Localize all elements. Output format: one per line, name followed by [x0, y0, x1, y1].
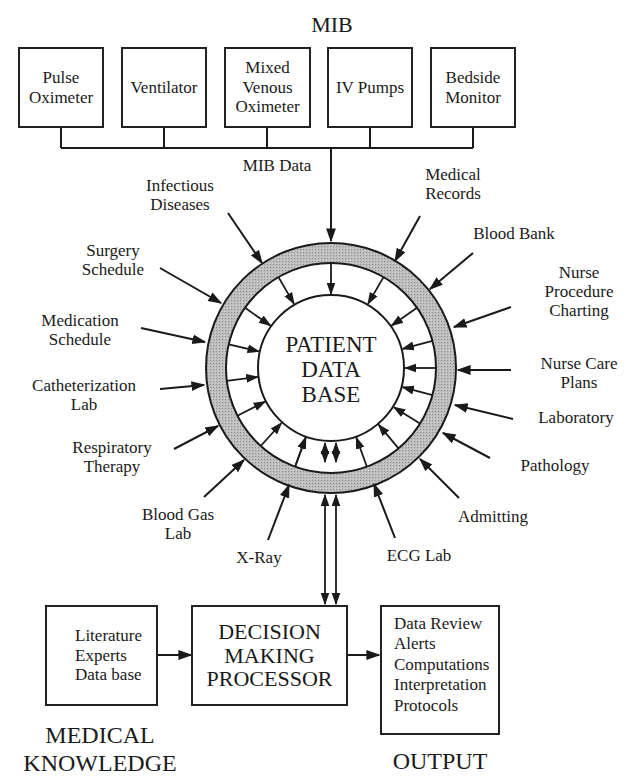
- caption-line-1: MEDICAL: [20, 722, 180, 750]
- inner-arrow: [403, 341, 433, 349]
- knowledge-item: Experts: [75, 646, 142, 666]
- device-bedside-monitor: Bedside Monitor: [430, 47, 516, 128]
- inner-arrow: [295, 438, 306, 467]
- processor-line-2: MAKING: [224, 644, 314, 668]
- inner-arrow: [279, 277, 295, 304]
- output-item: Alerts: [394, 634, 489, 654]
- center-line-2: DATA: [261, 358, 401, 383]
- knowledge-item: Data base: [75, 665, 142, 685]
- knowledge-item: Literature: [75, 626, 142, 646]
- output-box: Data Review Alerts Computations Interpre…: [380, 605, 500, 735]
- patient-database-title: PATIENT DATA BASE: [261, 333, 401, 407]
- inner-arrow: [229, 344, 259, 351]
- inner-arrow: [227, 377, 258, 381]
- inner-arrow: [356, 438, 367, 467]
- inner-arrow: [392, 308, 417, 326]
- inner-arrow: [368, 277, 384, 304]
- inner-arrow: [394, 407, 420, 423]
- source-medication-schedule: Medication Schedule: [24, 311, 136, 349]
- mib-title: MIB: [297, 12, 367, 37]
- source-surgery-schedule: Surgery Schedule: [70, 241, 156, 279]
- medical-knowledge-box: Literature Experts Data base: [45, 605, 158, 706]
- inner-arrow: [261, 423, 282, 446]
- source-catheterization-lab: Catheterization Lab: [14, 376, 154, 414]
- medical-knowledge-caption: MEDICAL KNOWLEDGE: [20, 722, 180, 777]
- source-blood-bank: Blood Bank: [464, 224, 564, 243]
- output-item: Interpretation: [394, 675, 489, 695]
- source-laboratory: Laboratory: [526, 408, 626, 427]
- output-list: Data Review Alerts Computations Interpre…: [382, 607, 489, 716]
- output-item: Protocols: [394, 696, 489, 716]
- output-caption: OUTPUT: [390, 748, 490, 776]
- inner-arrow: [379, 425, 399, 449]
- processor-line-1: DECISION: [218, 620, 321, 644]
- decision-making-processor-box: DECISION MAKING PROCESSOR: [191, 605, 348, 706]
- source-nurse-care-plans: Nurse Care Plans: [524, 354, 634, 392]
- processor-line-3: PROCESSOR: [207, 667, 333, 691]
- output-item: Data Review: [394, 614, 489, 634]
- source-medical-records: Medical Records: [410, 165, 496, 203]
- device-ventilator: Ventilator: [121, 47, 207, 128]
- source-pathology: Pathology: [505, 456, 605, 475]
- source-respiratory-therapy: Respiratory Therapy: [56, 438, 168, 476]
- knowledge-list: Literature Experts Data base: [47, 626, 142, 685]
- inner-arrow: [245, 308, 270, 326]
- source-blood-gas-lab: Blood Gas Lab: [130, 505, 226, 543]
- caption-line-2: KNOWLEDGE: [20, 750, 180, 778]
- source-infectious-diseases: Infectious Diseases: [132, 176, 228, 214]
- center-line-3: BASE: [261, 383, 401, 408]
- center-line-1: PATIENT: [261, 333, 401, 358]
- source-ecg-lab: ECG Lab: [374, 546, 464, 565]
- source-admitting: Admitting: [445, 507, 541, 526]
- device-mixed-venous-oximeter: Mixed Venous Oximeter: [224, 47, 311, 128]
- output-item: Computations: [394, 655, 489, 675]
- source-nurse-procedure-charting: Nurse Procedure Charting: [524, 263, 634, 320]
- source-x-ray: X-Ray: [226, 548, 292, 567]
- inner-arrow: [403, 387, 433, 395]
- mib-data-label: MIB Data: [232, 156, 322, 175]
- device-pulse-oximeter: Pulse Oximeter: [18, 47, 104, 128]
- device-iv-pumps: IV Pumps: [327, 47, 413, 128]
